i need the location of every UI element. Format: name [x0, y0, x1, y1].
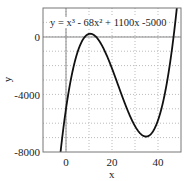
y-axis-label: y — [2, 77, 13, 83]
x-tick-label: 0 — [51, 157, 81, 168]
x-tick-label: 40 — [143, 157, 173, 168]
x-axis-label: x — [109, 169, 115, 180]
x-tick-label: 20 — [97, 157, 127, 168]
y-tick-label: -8000 — [0, 147, 40, 158]
y-tick-label: -4000 — [0, 90, 40, 101]
y-tick-label: 0 — [0, 32, 40, 43]
equation-annotation: y = x³ - 68x² + 1100x -5000 — [50, 17, 167, 28]
